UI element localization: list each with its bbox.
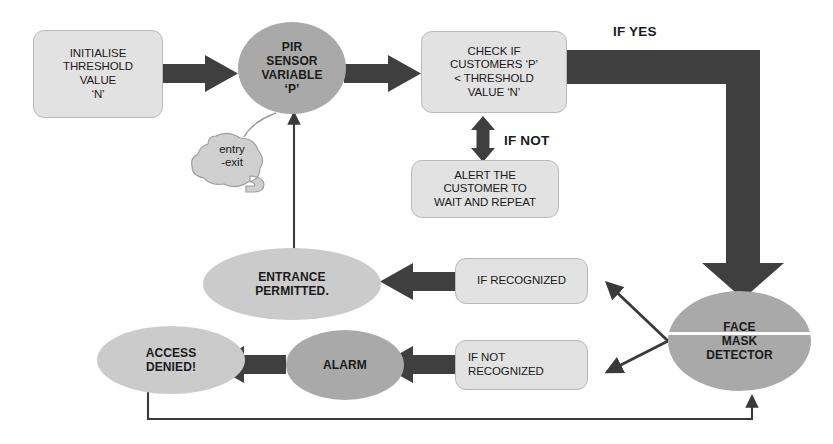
node-initialise-threshold-label: INITIALISE THRESHOLD VALUE ‘N’ [63,47,133,101]
label-if-yes-text: IF YES [613,24,657,39]
node-if-not-recognized[interactable]: IF NOT RECOGNIZED [455,340,588,390]
node-if-not-recognized-label: IF NOT RECOGNIZED [468,351,544,378]
node-access-denied[interactable]: ACCESS DENIED! [97,326,245,394]
node-entrance-permitted[interactable]: ENTRANCE PERMITTED. [203,248,381,320]
edge-check-to-alert [471,116,495,162]
label-if-yes: IF YES [613,24,657,39]
label-if-not: IF NOT [504,133,549,148]
node-check-threshold-label: CHECK IF CUSTOMERS ‘P’ < THRESHOLD VALUE… [450,45,538,99]
node-entry-exit-label: entry -exit [186,124,278,196]
edge-access-denied-to-detector [148,390,752,419]
node-alert-customer-label: ALERT THE CUSTOMER TO WAIT AND REPEAT [434,169,536,210]
edge-detector-to-if-not-recognized [607,341,668,372]
node-initialise-threshold[interactable]: INITIALISE THRESHOLD VALUE ‘N’ [33,30,163,118]
label-if-not-text: IF NOT [504,133,549,148]
edge-detector-to-if-recognized [607,283,668,341]
edge-if-recognized-to-entrance [380,263,455,300]
node-face-mask-detector-label: FACE MASK DETECTOR [706,320,773,362]
node-access-denied-label: ACCESS DENIED! [146,346,197,374]
edge-check-to-detector [566,50,784,299]
node-alarm-label: ALARM [323,358,367,372]
edge-pir-to-check [344,55,421,92]
node-pir-sensor-label: PIR SENSOR VARIABLE ‘P’ [261,40,322,97]
node-face-mask-detector[interactable]: FACE MASK DETECTOR [668,291,811,391]
node-alert-customer[interactable]: ALERT THE CUSTOMER TO WAIT AND REPEAT [411,160,559,218]
node-if-recognized-label: IF RECOGNIZED [477,274,566,288]
edge-initialise-to-pir [163,55,238,92]
node-entrance-permitted-label: ENTRANCE PERMITTED. [255,270,329,298]
node-pir-sensor[interactable]: PIR SENSOR VARIABLE ‘P’ [238,22,346,114]
node-if-recognized[interactable]: IF RECOGNIZED [455,258,588,304]
node-alarm[interactable]: ALARM [286,330,404,400]
node-entry-exit[interactable]: entry -exit [186,124,278,196]
node-check-threshold[interactable]: CHECK IF CUSTOMERS ‘P’ < THRESHOLD VALUE… [421,31,567,113]
flowchart-canvas: INITIALISE THRESHOLD VALUE ‘N’ PIR SENSO… [0,0,833,444]
